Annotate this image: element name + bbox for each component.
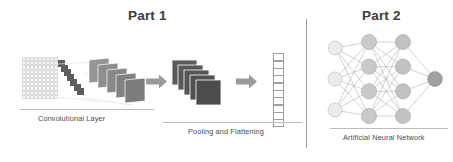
artificial-neural-network-graph [326,33,444,125]
ann-node-output-layer [428,72,443,87]
convolutional-layer-rule [20,109,154,110]
pooling-flattening-rule [163,122,302,123]
arrow-pool-to-flatten-icon [236,74,258,90]
ann-node-input-layer [328,72,342,86]
ann-node-hidden-layer-1 [361,59,376,74]
cnn-architecture-diagram: Part 1 Part 2 [0,0,453,162]
ann-nodes [328,34,442,123]
pooling-flattening-caption: Pooling and Flattening [188,127,264,136]
ann-node-hidden-layer-2 [395,34,410,49]
ann-node-hidden-layer-1 [361,34,376,49]
ann-node-input-layer [328,41,342,55]
ann-edges [335,42,435,116]
ann-node-hidden-layer-1 [361,84,376,99]
artificial-neural-network-rule [330,128,448,129]
ann-node-hidden-layer-2 [395,108,410,123]
convolutional-layer-caption: Convolutional Layer [38,114,105,123]
flatten-cell [273,119,284,127]
ann-node-input-layer [328,103,342,117]
ann-node-hidden-layer-2 [395,84,410,99]
flattened-vector [273,54,284,127]
artificial-neural-network-caption: Artificial Neural Network [343,133,425,142]
ann-node-hidden-layer-2 [395,59,410,74]
ann-node-hidden-layer-1 [361,108,376,123]
